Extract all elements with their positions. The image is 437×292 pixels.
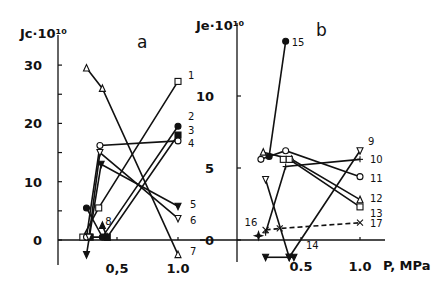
- open-square-marker: [175, 78, 181, 84]
- series-14: 14: [263, 240, 319, 261]
- series-label: 17: [370, 218, 383, 229]
- series-label: 3: [188, 125, 194, 136]
- x-tick-label: 1.0: [348, 259, 371, 274]
- open-square-marker: [286, 156, 292, 162]
- series-label: 2: [188, 111, 194, 122]
- filled-circle-marker: [175, 123, 181, 129]
- filled-circle-marker: [283, 38, 289, 44]
- panel-b-axes: [200, 23, 385, 262]
- open-circle-marker: [97, 143, 103, 149]
- series-16: 16: [245, 217, 263, 240]
- series-label: 11: [370, 173, 383, 184]
- open-circle-marker: [258, 156, 264, 162]
- filled-down-triangle-marker: [263, 254, 269, 261]
- open-square-marker: [96, 205, 102, 211]
- panel-a-label: a: [137, 32, 147, 52]
- panel-b: 05100.51.091011121314151617: [196, 37, 383, 274]
- y-tick-label: 10: [24, 175, 42, 190]
- series-11: 11: [258, 148, 383, 184]
- series-label: 1: [188, 70, 194, 81]
- open-circle-marker: [357, 174, 363, 180]
- open-square-marker: [357, 204, 363, 210]
- open-down-triangle-marker: [263, 177, 269, 184]
- filled-circle-marker: [84, 205, 90, 211]
- open-down-triangle-marker: [175, 215, 181, 222]
- x-tick-label: 1.0: [166, 261, 189, 276]
- series-label: 8: [105, 216, 111, 227]
- panel-b-y-axis-title: Je·10¹⁰: [195, 18, 244, 33]
- series-label: 14: [306, 240, 319, 251]
- y-tick-label: 10: [196, 89, 214, 104]
- figure: 01020300,51.01234567805100.51.0910111213…: [0, 0, 437, 292]
- series-line: [283, 159, 360, 207]
- series-label: 6: [190, 215, 196, 226]
- filled-circle-marker: [266, 153, 272, 159]
- series-label: 7: [190, 246, 196, 257]
- open-triangle-marker: [84, 65, 90, 72]
- series-label: 5: [190, 199, 196, 210]
- series-label: 10: [370, 154, 383, 165]
- series-line: [269, 41, 286, 156]
- star-marker: [255, 232, 263, 240]
- series-label: 9: [368, 136, 374, 147]
- chart-canvas: 01020300,51.01234567805100.51.0910111213…: [0, 0, 437, 292]
- y-tick-label: 5: [205, 161, 214, 176]
- series-12: 12: [260, 149, 382, 204]
- filled-down-triangle-marker: [84, 252, 90, 259]
- y-tick-label: 0: [33, 233, 42, 248]
- series-label: 12: [370, 193, 383, 204]
- panel-a-axes: [58, 35, 205, 265]
- y-tick-label: 20: [24, 116, 42, 131]
- y-tick-label: 0: [205, 233, 214, 248]
- series-label: 4: [188, 138, 194, 149]
- filled-down-triangle-marker: [175, 203, 181, 210]
- panel-b-label: b: [316, 20, 327, 40]
- panel-a: 01020300,51.012345678: [24, 58, 196, 276]
- x-tick-label: 0.5: [289, 259, 312, 274]
- open-circle-marker: [175, 138, 181, 144]
- open-square-marker: [280, 156, 286, 162]
- x-axis-title: P, MPa: [383, 258, 431, 273]
- panel-a-y-axis-title: Jc·10¹⁰: [19, 26, 67, 41]
- series-10: 10: [263, 154, 383, 235]
- series-1: 1: [80, 70, 195, 240]
- open-triangle-marker: [175, 251, 181, 258]
- open-triangle-marker: [357, 196, 363, 203]
- series-label: 15: [292, 37, 305, 48]
- filled-square-marker: [175, 132, 181, 138]
- series-label: 16: [245, 217, 258, 228]
- x-tick-label: 0,5: [105, 261, 128, 276]
- y-tick-label: 30: [24, 58, 42, 73]
- open-triangle-marker: [260, 149, 266, 156]
- series-15: 15: [266, 37, 304, 159]
- open-circle-marker: [283, 148, 289, 154]
